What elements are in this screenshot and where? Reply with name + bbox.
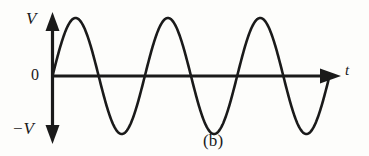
waveform-figure: V 0 −V t (b) xyxy=(0,0,369,156)
y-axis-arrow-down-icon xyxy=(46,125,60,144)
y-axis-top-label: V xyxy=(26,10,36,27)
figure-caption: (b) xyxy=(203,131,223,151)
plot-canvas xyxy=(0,0,369,156)
y-axis-arrow-up-icon xyxy=(46,12,60,31)
x-axis-label: t xyxy=(345,63,349,78)
y-axis-origin-label: 0 xyxy=(31,67,39,83)
y-axis-bottom-label: −V xyxy=(12,120,34,137)
